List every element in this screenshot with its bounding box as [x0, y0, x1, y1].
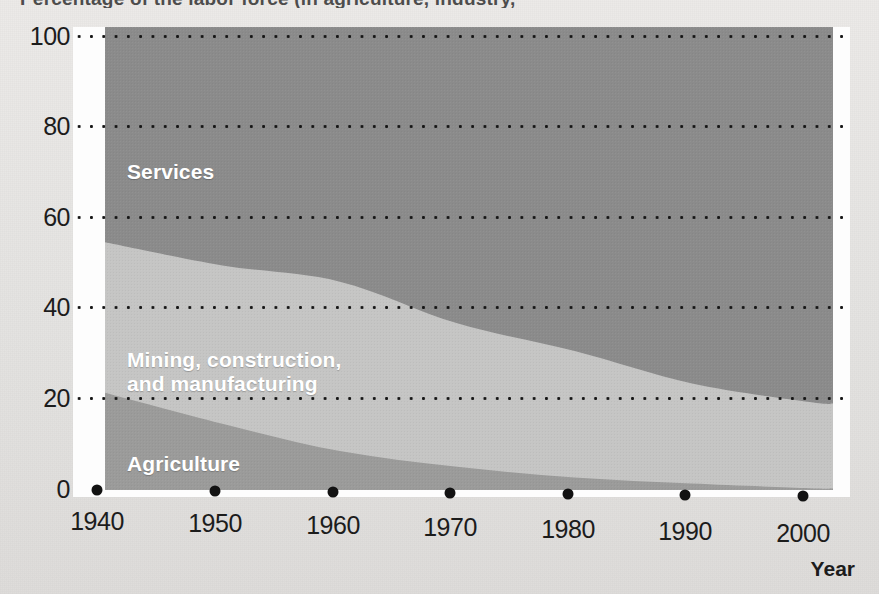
x-tick-label-2000: 2000	[776, 519, 830, 548]
gridline-60	[73, 216, 850, 219]
x-tick-dot-2000	[798, 491, 809, 502]
series-label-agriculture: Agriculture	[127, 452, 240, 476]
x-tick-label-1940: 1940	[70, 507, 124, 536]
gridline-40	[73, 306, 850, 309]
series-label-mining: Mining, construction, and manufacturing	[127, 348, 341, 396]
x-tick-label-1980: 1980	[541, 515, 595, 544]
x-tick-label-1970: 1970	[423, 513, 477, 542]
gridline-20	[73, 397, 850, 400]
x-tick-dot-1990	[680, 490, 691, 501]
x-tick-dot-1960	[328, 487, 339, 498]
gridline-100	[73, 35, 850, 38]
y-tick-label-60: 60	[8, 203, 70, 232]
x-tick-label-1960: 1960	[306, 511, 360, 540]
x-tick-dot-1970	[445, 488, 456, 499]
y-tick-label-80: 80	[8, 112, 70, 141]
y-tick-label-0: 0	[8, 475, 70, 504]
series-label-services: Services	[127, 160, 214, 184]
y-tick-label-40: 40	[8, 293, 70, 322]
paper-texture-overlay	[105, 27, 833, 490]
gridline-80	[73, 125, 850, 128]
stacked-area-chart-figure: Percentage of the labor force (in agricu…	[0, 0, 879, 594]
stacked-area-svg	[105, 27, 833, 490]
x-tick-label-1990: 1990	[658, 517, 712, 546]
y-tick-label-100: 100	[8, 22, 70, 51]
x-tick-dot-1950	[210, 486, 221, 497]
y-tick-label-20: 20	[8, 384, 70, 413]
x-tick-dot-1980	[563, 489, 574, 500]
x-tick-label-1950: 1950	[188, 509, 242, 538]
x-axis: 1940 1950 1960 1970 1980 1990 2000	[0, 505, 879, 545]
figure-title-fragment: Percentage of the labor force (in agricu…	[20, 0, 540, 8]
x-axis-title: Year	[811, 557, 855, 581]
x-tick-dot-1940	[92, 485, 103, 496]
plot-area	[105, 27, 833, 490]
